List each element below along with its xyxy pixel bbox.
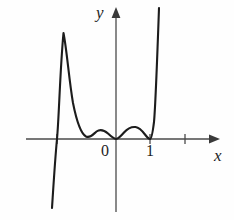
y-axis-label: y <box>96 4 104 21</box>
x-axis-arrowhead <box>209 135 220 144</box>
polynomial-curve <box>52 8 159 208</box>
x-tick-label-one: 1 <box>146 143 154 159</box>
origin-tick-label: 0 <box>101 143 109 159</box>
y-axis-arrowhead <box>112 7 121 18</box>
graph-canvas <box>0 0 234 220</box>
x-axis-label: x <box>214 147 222 164</box>
graph-figure: y x 0 1 <box>0 0 234 220</box>
